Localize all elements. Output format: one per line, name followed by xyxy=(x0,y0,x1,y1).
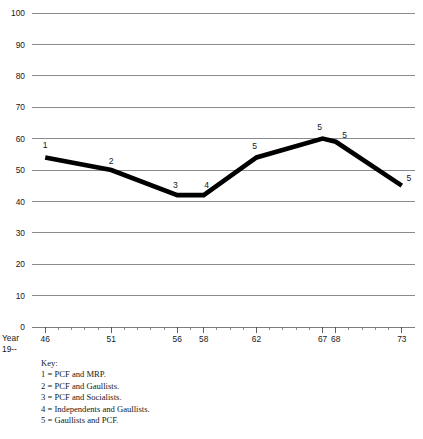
y-tick-label-60: 60 xyxy=(16,134,26,144)
y-tick-label-80: 80 xyxy=(16,71,26,81)
key-entry-1: 1 = PCF and MRP. xyxy=(41,369,371,380)
y-tick-label-0: 0 xyxy=(20,322,25,332)
x-axis-tick-labels: 4651565862676873 xyxy=(41,334,407,344)
key-entry-3: 3 = PCF and Socialists. xyxy=(41,392,371,403)
x-axis-caption-line1: Year xyxy=(2,333,19,343)
point-label-3: 4 xyxy=(204,180,209,190)
y-tick-label-40: 40 xyxy=(16,197,26,207)
point-label-6: 5 xyxy=(342,130,347,140)
y-tick-label-10: 10 xyxy=(16,291,26,301)
x-tick-label-58: 58 xyxy=(199,334,209,344)
line-chart-svg: 0102030405060708090100 4651565862676873 … xyxy=(0,0,423,365)
x-tick-label-62: 62 xyxy=(252,334,262,344)
chart-key: Key: 1 = PCF and MRP.2 = PCF and Gaullis… xyxy=(41,358,371,426)
key-entry-5: 5 = Gaullists and PCF. xyxy=(41,415,371,426)
y-tick-label-30: 30 xyxy=(16,228,26,238)
chart-page: 0102030405060708090100 4651565862676873 … xyxy=(0,0,423,439)
x-tick-label-56: 56 xyxy=(173,334,183,344)
x-tick-label-46: 46 xyxy=(41,334,51,344)
x-tick-label-67: 67 xyxy=(318,334,328,344)
point-label-0: 1 xyxy=(43,140,48,150)
key-entry-4: 4 = Independents and Gaullists. xyxy=(41,404,371,415)
y-tick-label-50: 50 xyxy=(16,165,26,175)
x-tick-label-73: 73 xyxy=(397,334,407,344)
key-heading: Key: xyxy=(41,358,371,369)
x-axis-caption-line2: 19-- xyxy=(2,344,17,354)
point-label-7: 5 xyxy=(406,173,411,183)
point-label-2: 3 xyxy=(173,180,178,190)
key-entry-2: 2 = PCF and Gaullists. xyxy=(41,381,371,392)
x-axis-group xyxy=(32,327,415,333)
chart-plot-area: 0102030405060708090100 4651565862676873 … xyxy=(0,0,423,365)
x-tick-label-51: 51 xyxy=(107,334,117,344)
y-tick-label-20: 20 xyxy=(16,259,26,269)
point-label-1: 2 xyxy=(109,156,114,166)
point-label-5: 5 xyxy=(317,122,322,132)
data-series-line xyxy=(45,139,402,196)
key-entry-list: 1 = PCF and MRP.2 = PCF and Gaullists.3 … xyxy=(41,369,371,426)
point-label-4: 5 xyxy=(252,141,257,151)
y-tick-label-100: 100 xyxy=(11,8,25,18)
y-tick-label-70: 70 xyxy=(16,102,26,112)
y-tick-label-90: 90 xyxy=(16,40,26,50)
x-tick-label-68: 68 xyxy=(331,334,341,344)
y-axis-tick-labels: 0102030405060708090100 xyxy=(11,8,25,332)
